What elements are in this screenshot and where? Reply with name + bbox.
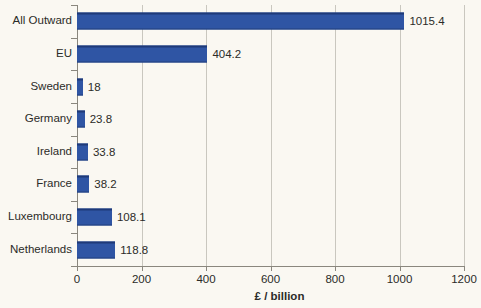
y-axis-tick [71,201,77,202]
bar-germany[interactable]: 23.8 [77,111,85,128]
bar-value-label: 404.2 [212,49,241,61]
x-axis-tick [335,266,336,271]
bar-row: 33.8 [77,143,464,160]
x-axis-tick [464,266,465,271]
category-label-sweden: Sweden [0,81,72,93]
x-axis-tick-label: 1200 [451,274,477,286]
y-axis-tick [71,5,77,6]
y-axis-tick [71,136,77,137]
category-label-netherlands: Netherlands [0,244,72,256]
x-axis-tick-label: 600 [261,274,280,286]
x-axis-tick [142,266,143,271]
x-axis-tick-label: 0 [74,274,80,286]
gridline-0 [77,5,78,266]
x-axis-title: £ / billion [255,291,305,303]
bar-luxembourg[interactable]: 108.1 [77,209,112,226]
bar-row: 108.1 [77,209,464,226]
bar-value-label: 108.1 [117,212,146,224]
bar-value-label: 23.8 [90,114,112,126]
y-axis-tick [71,70,77,71]
bar-eu[interactable]: 404.2 [77,45,207,62]
plot-area: 1015.4 404.2 18 23.8 33.8 38.2 [77,5,464,266]
bar-row: 118.8 [77,241,464,258]
bar-value-label: 33.8 [93,147,115,159]
bar-row: 1015.4 [77,13,464,30]
bar-row: 23.8 [77,111,464,128]
bar-netherlands[interactable]: 118.8 [77,241,115,258]
x-axis-tick [77,266,78,271]
x-axis-title-wrap: £ / billion [0,291,481,303]
gridline-1200 [464,5,465,266]
bar-row: 38.2 [77,176,464,193]
category-label-luxembourg: Luxembourg [0,211,72,223]
bar-chart: 1015.4 404.2 18 23.8 33.8 38.2 [0,0,481,308]
bar-france[interactable]: 38.2 [77,176,89,193]
y-axis-tick [71,233,77,234]
y-axis-tick [71,38,77,39]
x-axis-tick [400,266,401,271]
category-label-germany: Germany [0,113,72,125]
bar-all-outward[interactable]: 1015.4 [77,13,404,30]
bar-row: 18 [77,78,464,95]
gridline-400 [206,5,207,266]
bar-value-label: 118.8 [120,244,148,256]
category-label-france: France [0,179,72,191]
x-axis-tick-label: 400 [196,274,215,286]
x-axis-tick-label: 800 [325,274,344,286]
bar-ireland[interactable]: 33.8 [77,143,88,160]
y-axis-labels: All Outward EU Sweden Germany Ireland Fr… [0,5,72,266]
bar-value-label: 18 [88,81,101,93]
x-axis-tick-label: 1000 [387,274,413,286]
gridline-600 [271,5,272,266]
bar-value-label: 38.2 [94,179,116,191]
x-axis-tick [206,266,207,271]
x-axis-tick-label: 200 [132,274,151,286]
gridline-800 [335,5,336,266]
category-label-eu: EU [0,48,72,60]
y-axis-tick [71,103,77,104]
gridline-200 [142,5,143,266]
bar-row: 404.2 [77,45,464,62]
category-label-ireland: Ireland [0,146,72,158]
bar-sweden[interactable]: 18 [77,78,83,95]
bar-value-label: 1015.4 [409,16,444,28]
category-label-all-outward: All Outward [0,16,72,28]
x-axis-tick [271,266,272,271]
y-axis-tick [71,168,77,169]
gridline-1000 [400,5,401,266]
